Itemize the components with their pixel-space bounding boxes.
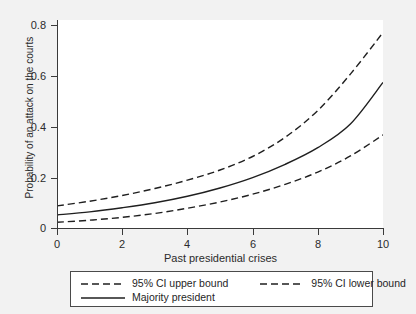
x-tick-mark-2 xyxy=(122,229,123,235)
x-tick-mark-8 xyxy=(318,229,319,235)
legend-entry-ci-lower: 95% CI lower bound xyxy=(260,278,406,289)
legend-label-ci-upper: 95% CI upper bound xyxy=(132,278,228,289)
legend-entry-majority-president: Majority president xyxy=(81,292,215,303)
x-tick-mark-10 xyxy=(383,229,384,235)
plot-area xyxy=(57,20,383,228)
legend-entry-ci-upper: 95% CI upper bound xyxy=(81,278,228,289)
chart-figure: 0.8 0.6 0.4 0.2 0 0 2 4 6 8 10 Probabili… xyxy=(0,0,416,314)
x-tick-label-10: 10 xyxy=(368,238,398,250)
x-tick-label-8: 8 xyxy=(303,238,333,250)
x-axis-line xyxy=(57,228,384,229)
y-tick-mark-0.2 xyxy=(51,178,57,179)
legend-label-ci-lower: 95% CI lower bound xyxy=(311,278,406,289)
x-axis-title: Past presidential crises xyxy=(57,252,384,264)
y-tick-label-0: 0 xyxy=(6,223,46,234)
legend-box: 95% CI upper bound 95% CI lower bound M xyxy=(70,271,373,307)
legend-label-majority-president: Majority president xyxy=(132,292,215,303)
y-axis-line xyxy=(57,20,58,229)
x-tick-mark-4 xyxy=(187,229,188,235)
x-tick-label-0: 0 xyxy=(42,238,72,250)
x-tick-label-4: 4 xyxy=(172,238,202,250)
solid-line-icon xyxy=(81,294,125,302)
legend-row-bottom: Majority president xyxy=(81,290,215,305)
x-tick-mark-0 xyxy=(57,229,58,235)
y-tick-mark-0.6 xyxy=(51,76,57,77)
curve-ci-upper xyxy=(57,32,383,205)
curve-ci-lower xyxy=(57,135,383,222)
x-tick-label-6: 6 xyxy=(238,238,268,250)
y-axis-title: Probability of an attack on the courts xyxy=(24,13,35,223)
x-tick-mark-6 xyxy=(253,229,254,235)
curve-layer xyxy=(57,20,383,228)
legend-row-top: 95% CI upper bound 95% CI lower bound xyxy=(81,276,406,291)
dashed-line-icon xyxy=(81,280,125,288)
y-tick-mark-0.4 xyxy=(51,127,57,128)
curve-majority-president xyxy=(57,82,383,215)
y-tick-mark-0.8 xyxy=(51,25,57,26)
dashed-line-icon xyxy=(260,280,304,288)
x-tick-label-2: 2 xyxy=(107,238,137,250)
